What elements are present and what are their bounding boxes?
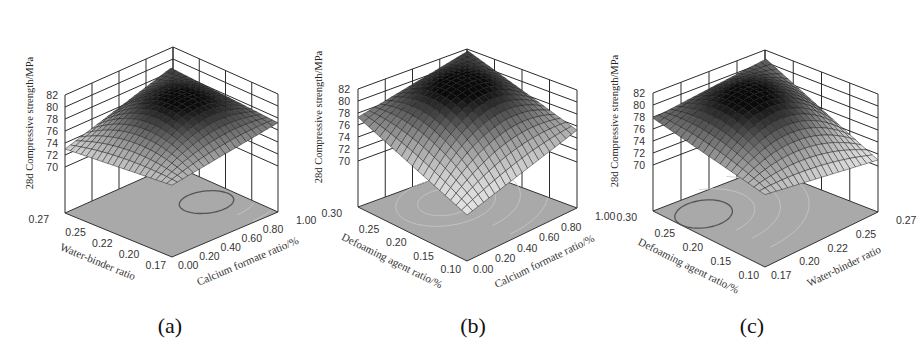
z-tick-labels: 70727476788082 xyxy=(633,87,645,171)
left-axis-tick: 0.15 xyxy=(711,255,732,267)
z-tick-label: 74 xyxy=(338,131,350,143)
right-axis-tick: 0.60 xyxy=(242,232,263,244)
right-axis-tick: 0.27 xyxy=(896,214,917,226)
z-tick-label: 76 xyxy=(338,119,350,131)
response-surface xyxy=(358,51,577,215)
z-tick-label: 78 xyxy=(633,111,645,123)
z-tick-label: 70 xyxy=(46,161,58,173)
z-tick-label: 78 xyxy=(338,107,350,119)
left-axis-tick: 0.27 xyxy=(29,213,50,225)
z-tick-label: 74 xyxy=(633,135,645,147)
z-axis-label: 28d Compressive strength/MPa xyxy=(313,50,324,183)
right-axis-tick: 0.00 xyxy=(178,259,199,271)
z-tick-label: 76 xyxy=(46,125,58,137)
z-tick-label: 76 xyxy=(633,123,645,135)
z-tick-label: 78 xyxy=(46,113,58,125)
left-axis-tick: 0.30 xyxy=(617,211,638,223)
left-axis-tick: 0.15 xyxy=(413,250,434,262)
surface-plots-figure: 7072747678808228d Compressive strength/M… xyxy=(0,0,924,355)
left-axis-tick: 0.25 xyxy=(359,223,380,235)
caption-c: (c) xyxy=(740,313,764,338)
z-tick-labels: 70727476788082 xyxy=(46,89,58,173)
panel-a: 7072747678808228d Compressive strength/M… xyxy=(24,47,317,288)
z-tick-label: 74 xyxy=(46,137,58,149)
left-axis-tick: 0.20 xyxy=(683,241,704,253)
z-tick-label: 82 xyxy=(338,83,350,95)
left-axis-tick: 0.25 xyxy=(65,226,86,238)
left-axis-tick: 0.10 xyxy=(441,263,462,275)
left-axis-tick: 0.30 xyxy=(322,207,343,219)
left-axis-tick: 0.22 xyxy=(92,237,113,249)
right-axis-tick: 0.25 xyxy=(856,228,877,240)
right-axis-tick: 0.20 xyxy=(799,255,820,267)
right-axis-tick: 0.00 xyxy=(473,263,494,275)
z-tick-label: 80 xyxy=(338,95,350,107)
z-tick-label: 70 xyxy=(338,155,350,167)
left-axis-tick: 0.20 xyxy=(386,236,407,248)
caption-b: (b) xyxy=(460,313,486,338)
panel-b: 7072747678808228d Compressive strength/M… xyxy=(313,49,616,290)
right-axis-tick: 0.17 xyxy=(771,269,792,281)
response-surface xyxy=(653,59,878,195)
right-axis-tick: 0.20 xyxy=(199,250,220,262)
z-tick-label: 80 xyxy=(46,101,58,113)
figure: 7072747678808228d Compressive strength/M… xyxy=(0,0,924,355)
right-axis-tick: 0.20 xyxy=(495,252,516,264)
z-tick-label: 82 xyxy=(46,89,58,101)
left-axis-tick: 0.17 xyxy=(146,259,167,271)
z-tick-label: 72 xyxy=(633,147,645,159)
caption-a: (a) xyxy=(158,313,182,338)
z-tick-labels: 70727476788082 xyxy=(338,83,350,167)
z-tick-label: 82 xyxy=(633,87,645,99)
z-axis-label: 28d Compressive strength/MPa xyxy=(24,56,35,189)
right-axis-tick: 0.40 xyxy=(220,241,241,253)
z-tick-label: 72 xyxy=(46,149,58,161)
z-tick-label: 80 xyxy=(633,99,645,111)
z-tick-label: 70 xyxy=(633,159,645,171)
right-axis-tick: 1.00 xyxy=(595,210,616,222)
right-axis-tick: 0.40 xyxy=(517,242,538,254)
right-axis-tick: 0.60 xyxy=(539,231,560,243)
z-axis-label: 28d Compressive strength/MPa xyxy=(609,54,620,187)
right-axis-tick: 1.00 xyxy=(296,214,317,226)
right-axis-tick: 0.80 xyxy=(561,221,582,233)
z-tick-label: 72 xyxy=(338,143,350,155)
left-axis-tick: 0.10 xyxy=(739,269,760,281)
right-axis-tick: 0.22 xyxy=(828,242,849,254)
response-surface xyxy=(65,68,278,185)
left-axis-tick: 0.25 xyxy=(655,227,676,239)
right-axis-tick: 0.80 xyxy=(263,223,284,235)
left-axis-tick: 0.20 xyxy=(119,248,140,260)
panel-c: 7072747678808228d Compressive strength/M… xyxy=(609,50,917,296)
